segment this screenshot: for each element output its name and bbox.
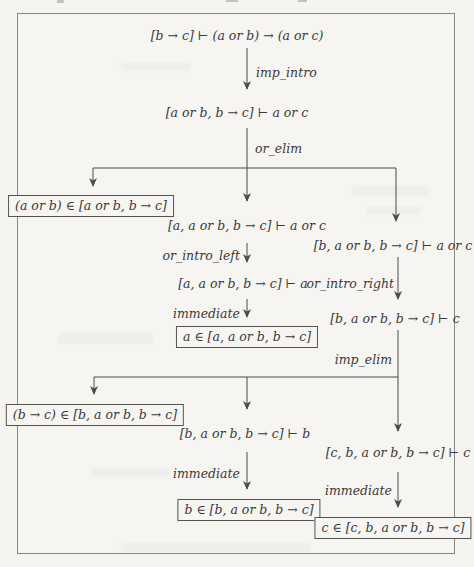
box-b-membership: b ∈ [b, a or b, b → c]	[177, 499, 320, 521]
scanned-page: [b → c] ⊢ (a or b) → (a or c) [a or b, b…	[0, 0, 474, 567]
label-immediate-2: immediate	[173, 466, 240, 481]
label-or-intro-left: or_intro_left	[162, 248, 240, 263]
node-case-a-sub: [a, a or b, b → c] ⊢ a	[178, 276, 308, 291]
box-btoc-membership: (b → c) ∈ [b, a or b, b → c]	[6, 404, 184, 426]
label-or-elim: or_elim	[255, 141, 302, 156]
node-b-goal: [b, a or b, b → c] ⊢ b	[180, 426, 311, 441]
node-after-imp-intro: [a or b, b → c] ⊢ a or c	[166, 105, 309, 120]
label-imp-intro: imp_intro	[256, 65, 317, 80]
box-aorb-membership: (a or b) ∈ [a or b, b → c]	[8, 195, 174, 217]
label-imp-elim: imp_elim	[335, 352, 392, 367]
box-a-membership: a ∈ [a, a or b, b → c]	[176, 326, 318, 348]
node-c-goal: [c, b, a or b, b → c] ⊢ c	[326, 445, 471, 460]
label-or-intro-right: or_intro_right	[306, 276, 394, 291]
label-immediate-3: immediate	[325, 483, 392, 498]
node-case-b-goal: [b, a or b, b → c] ⊢ a or c	[314, 238, 473, 253]
node-case-a-goal: [a, a or b, b → c] ⊢ a or c	[168, 218, 326, 233]
node-root-sequent: [b → c] ⊢ (a or b) → (a or c)	[151, 28, 324, 43]
box-c-membership: c ∈ [c, b, a or b, b → c]	[314, 517, 471, 539]
node-case-b-c-goal: [b, a or b, b → c] ⊢ c	[330, 311, 460, 326]
label-immediate-1: immediate	[173, 306, 240, 321]
